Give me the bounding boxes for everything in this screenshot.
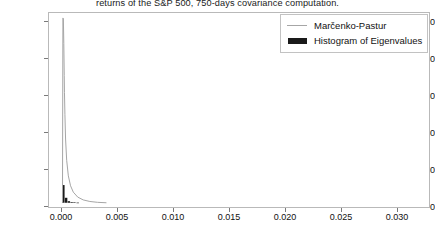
histogram-bar: [77, 203, 79, 204]
x-tick-label-0.010: 0.010: [143, 212, 203, 222]
x-tick-mark-0.015: [229, 208, 230, 212]
chart-legend: Marčenko-Pastur Histogram of Eigenvalues: [280, 14, 428, 53]
x-tick-mark-0.025: [341, 208, 342, 212]
x-tick-label-0.025: 0.025: [311, 212, 371, 222]
histogram-bar: [70, 202, 72, 203]
x-tick-mark-0.020: [285, 208, 286, 212]
legend-label-histogram: Histogram of Eigenvalues: [314, 35, 422, 46]
legend-item-histogram: Histogram of Eigenvalues: [286, 33, 422, 48]
x-tick-label-0.020: 0.020: [255, 212, 315, 222]
x-tick-label-0.030: 0.030: [367, 212, 427, 222]
x-tick-label-0.005: 0.005: [87, 212, 147, 222]
x-tick-mark-0.010: [173, 208, 174, 212]
x-tick-label-0.015: 0.015: [199, 212, 259, 222]
marcenko-pastur-curve: [62, 18, 106, 203]
histogram-bar: [65, 198, 67, 203]
histogram-bar: [68, 201, 70, 203]
legend-label-marcenko-pastur: Marčenko-Pastur: [314, 20, 386, 31]
x-tick-mark-0.005: [117, 208, 118, 212]
histogram-bars: [62, 185, 79, 203]
bar-swatch-icon: [286, 38, 308, 44]
chart-title: returns of the S&P 500, 750-days covaria…: [0, 0, 435, 9]
x-tick-mark-0.030: [397, 208, 398, 212]
x-tick-label-0.000: 0.000: [31, 212, 91, 222]
figure-canvas: returns of the S&P 500, 750-days covaria…: [0, 0, 435, 227]
legend-item-marcenko-pastur: Marčenko-Pastur: [286, 18, 422, 33]
histogram-bar: [73, 202, 75, 203]
x-tick-mark-0.000: [61, 208, 62, 212]
line-swatch-icon: [286, 25, 308, 26]
